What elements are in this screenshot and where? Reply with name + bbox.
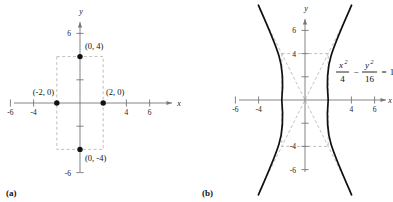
x-axis-label-b: x [387, 96, 392, 105]
x-tick-label--4-b: -4 [255, 105, 261, 114]
y-axis-label-a: y [78, 7, 83, 16]
x-tick-label-4-b: 4 [350, 105, 354, 114]
y-tick-label-6-a: 6 [67, 29, 71, 38]
figure-container: x y -6 -4 4 6 6 -6 (0, 4) (2, 0) (-2, 0)… [0, 0, 393, 202]
equation-label: x 2 4 − y 2 16 = 1 [336, 59, 393, 84]
point-label-2-0: (2, 0) [106, 87, 125, 97]
x-tick-label--6-b: -6 [232, 105, 238, 114]
y-axis-arrow-b [303, 19, 307, 25]
y-tick-label--4-b: -4 [290, 142, 296, 151]
x-tick-label--4-a: -4 [30, 108, 36, 117]
equation-operator: − [353, 67, 358, 77]
x-tick-label-6-a: 6 [148, 108, 152, 117]
panel-b: x y -6 -4 4 6 6 4 -4 -6 x 2 4 − [196, 0, 393, 202]
equation-equals: = [381, 67, 386, 77]
x-axis-label-a: x [176, 99, 181, 108]
y-tick-label--6-b: -6 [290, 166, 296, 175]
x-tick-label--6-a: -6 [7, 108, 13, 117]
point--2-0 [54, 100, 59, 105]
equation-num1: x [338, 60, 343, 70]
equation-num2-exponent: 2 [371, 59, 374, 65]
x-tick-label-4-a: 4 [125, 108, 129, 117]
x-tick-label-6-b: 6 [373, 105, 377, 114]
equation-den1: 4 [340, 74, 345, 84]
y-axis-arrow-a [78, 22, 82, 28]
equation-den2: 16 [365, 74, 375, 84]
y-tick-label-6-b: 6 [292, 26, 296, 35]
panel-a-plot: x y -6 -4 4 6 6 -6 (0, 4) (2, 0) (-2, 0)… [0, 0, 196, 202]
point-label-0-4: (0, 4) [85, 41, 104, 51]
y-tick-label--6-a: -6 [65, 169, 71, 178]
y-tick-label-4-b: 4 [292, 50, 296, 59]
x-axis-arrow-b [381, 98, 387, 102]
point-2-0 [101, 100, 106, 105]
panel-b-caption: (b) [202, 188, 213, 198]
point-0--4 [77, 147, 82, 152]
equation-num1-exponent: 2 [345, 59, 348, 65]
point-0-4 [77, 54, 82, 59]
y-axis-label-b: y [303, 4, 308, 13]
equation-num2: y [364, 60, 369, 70]
panel-b-plot: x y -6 -4 4 6 6 4 -4 -6 x 2 4 − [196, 0, 393, 202]
point-label--2-0: (-2, 0) [33, 87, 54, 97]
point-label-0--4: (0, -4) [85, 153, 106, 163]
x-axis-arrow-a [167, 101, 173, 105]
panel-a: x y -6 -4 4 6 6 -6 (0, 4) (2, 0) (-2, 0)… [0, 0, 196, 202]
panel-a-caption: (a) [6, 188, 17, 198]
